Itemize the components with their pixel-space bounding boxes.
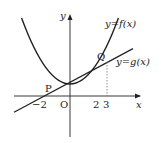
tick-neg2-label: −2	[32, 99, 47, 110]
tick-3-label: 3	[103, 99, 109, 110]
x-axis-arrow-icon	[135, 94, 141, 99]
origin-label: O	[60, 99, 68, 110]
point-p-label: P	[45, 83, 52, 94]
graph-figure: y x O −2 2 3 P Q y=f(x) y=g(x)	[0, 0, 161, 143]
x-axis-label: x	[136, 99, 142, 110]
point-q-label: Q	[97, 51, 105, 62]
curve-f-label: y=f(x)	[104, 18, 136, 29]
tick-2-label: 2	[93, 99, 99, 110]
curve-g-label: y=g(x)	[115, 56, 150, 67]
y-axis-arrow-icon	[68, 14, 73, 20]
y-axis-label: y	[59, 10, 66, 21]
